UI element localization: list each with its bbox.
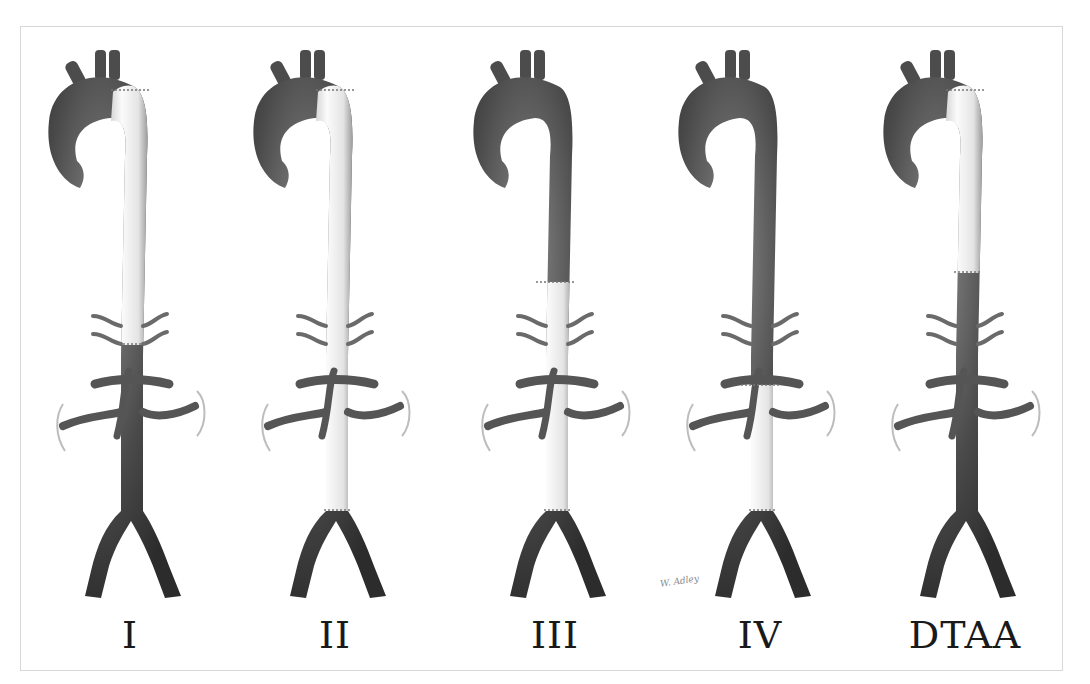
aorta-illustration xyxy=(230,26,440,626)
aorta-illustration xyxy=(655,26,865,626)
native-aorta xyxy=(883,77,1016,598)
aorta-illustration xyxy=(450,26,660,626)
native-aorta xyxy=(678,77,811,598)
aorta-illustration xyxy=(860,26,1070,626)
panel-label: DTAA xyxy=(860,616,1070,654)
panel-label: III xyxy=(450,616,660,654)
native-aorta xyxy=(253,77,386,598)
aorta-panel-ii: II xyxy=(230,26,440,671)
aorta-panel-iii: III xyxy=(450,26,660,671)
panel-label: IV xyxy=(655,616,865,654)
aorta-panel-i: I xyxy=(25,26,235,671)
panel-label: II xyxy=(230,616,440,654)
native-aorta xyxy=(473,77,606,598)
aorta-illustration xyxy=(25,26,235,626)
panel-label: I xyxy=(25,616,235,654)
graft-segment xyxy=(316,85,352,511)
native-aorta xyxy=(48,77,181,598)
aorta-panel-dtaa: DTAA xyxy=(860,26,1070,671)
